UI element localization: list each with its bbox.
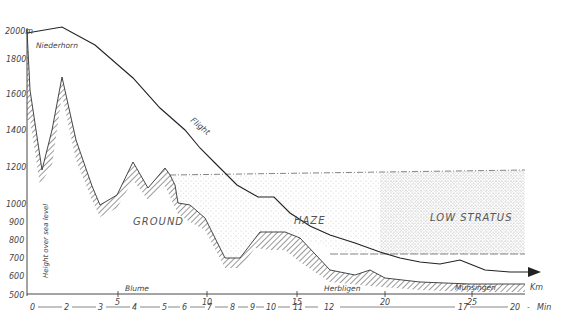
min-tick-2: 2	[64, 303, 69, 312]
label-ground: GROUND	[133, 216, 184, 227]
min-tick-6: 6	[182, 303, 187, 312]
km-tick-25: 25	[467, 298, 477, 307]
label-niederhorn: Niederhorn	[36, 41, 78, 50]
y-axis-label: Height over sea level	[42, 204, 50, 278]
km-tick-20: 20	[380, 298, 390, 307]
label-flight: Flight	[189, 116, 213, 138]
y-tick-2000: 2000m	[5, 27, 33, 36]
label-herbligen: Herbligen	[324, 284, 361, 293]
y-tick-1800: 1800	[6, 55, 26, 64]
min-tick-20: 20	[510, 303, 520, 312]
min-tick-12: 12	[324, 303, 334, 312]
min-tick-5: 5	[162, 303, 167, 312]
km-tick-5: 5	[115, 298, 120, 307]
min-tick-10: 10	[266, 303, 276, 312]
min-tick-11: 11	[293, 303, 303, 312]
arrowhead-icon	[528, 267, 541, 277]
y-tick-1600: 1600	[6, 90, 26, 99]
min-tick-9: 9	[250, 303, 255, 312]
y-tick-600: 600	[9, 272, 24, 281]
y-tick-1400: 1400	[6, 126, 26, 135]
min-tick-3: 3	[98, 303, 103, 312]
y-tick-1000: 1000	[6, 200, 26, 209]
label-haze: HAZE	[294, 215, 326, 226]
annotations: Niederhorn Flight GROUND HAZE LOW STRATU…	[36, 41, 513, 293]
min-unit-label: Min	[537, 303, 551, 312]
label-blume: Blume	[125, 284, 149, 293]
flight-profile-diagram: 2000m 1800 1600 1400 1200 1000 900 800 7…	[0, 0, 564, 326]
min-tick-4: 4	[132, 303, 137, 312]
y-tick-800: 800	[9, 236, 24, 245]
min-tick-8: 8	[230, 303, 235, 312]
y-tick-700: 700	[9, 254, 24, 263]
min-tick-17: 17	[458, 303, 469, 312]
y-tick-900: 900	[9, 218, 24, 227]
min-dash: -	[527, 303, 530, 312]
label-low-stratus: LOW STRATUS	[430, 212, 513, 223]
y-tick-500: 500	[9, 291, 24, 300]
min-tick-0: 0	[30, 303, 35, 312]
y-tick-1200: 1200	[6, 163, 26, 172]
km-unit-label: Km	[530, 283, 543, 292]
label-munsingen: Münsingen	[455, 283, 496, 292]
